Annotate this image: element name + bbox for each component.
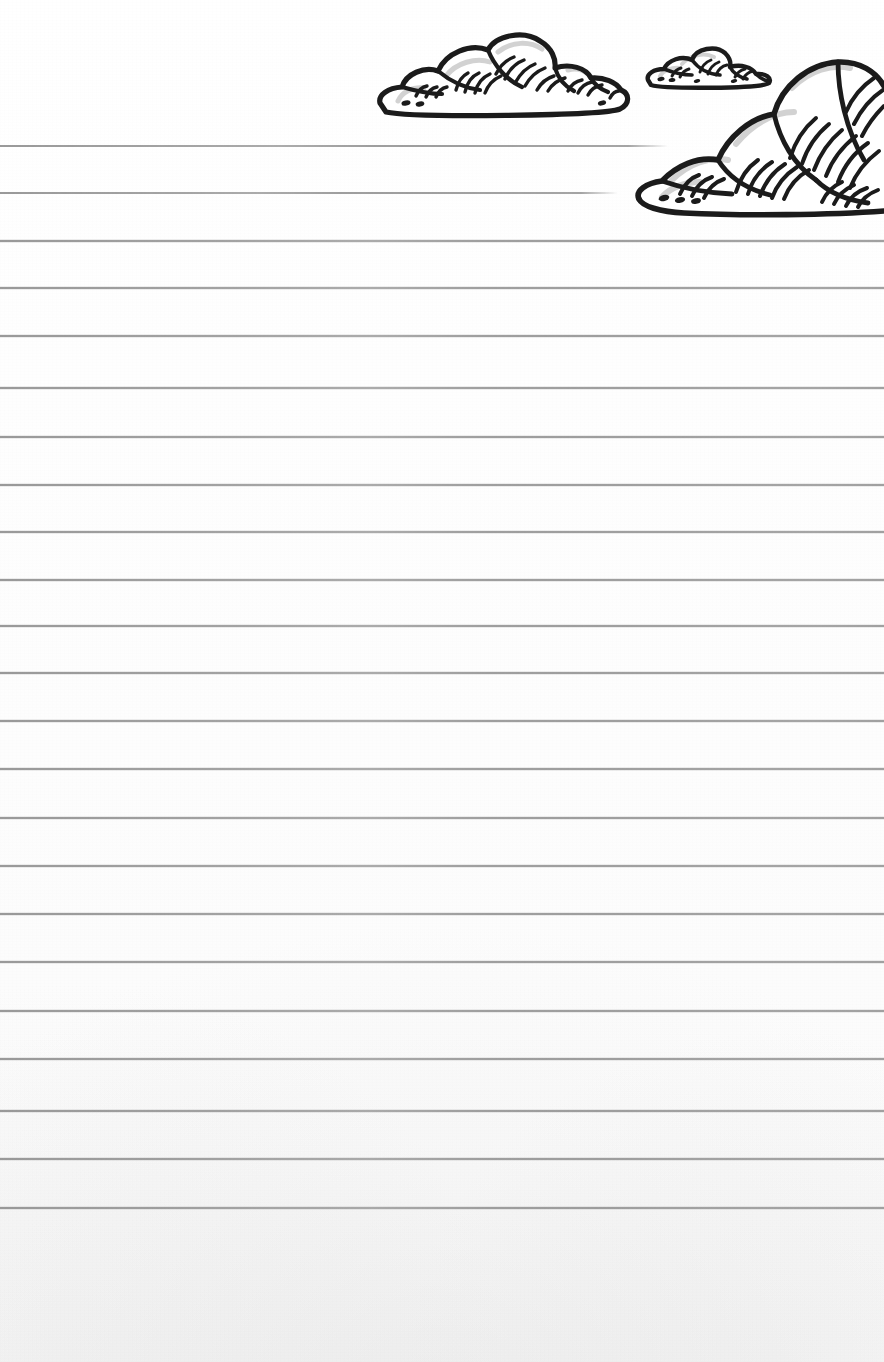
ruled-line [0, 1058, 884, 1060]
ruled-line [0, 1110, 884, 1112]
ruled-line [0, 1010, 884, 1012]
ruled-line [0, 961, 884, 963]
ruled-line [0, 436, 884, 438]
ruled-line [0, 720, 884, 722]
ruled-line [0, 817, 884, 819]
ruled-line [0, 287, 884, 289]
notepaper-page [0, 0, 884, 1362]
ruled-line [0, 192, 618, 194]
ruled-line [0, 672, 884, 674]
ruled-line [0, 1207, 884, 1209]
ruled-line [0, 145, 668, 147]
ruled-line [0, 913, 884, 915]
ruled-line [0, 335, 884, 337]
ruled-line [0, 240, 884, 242]
ruled-line [0, 579, 884, 581]
ruled-line [0, 1158, 884, 1160]
ruled-line [0, 768, 884, 770]
ruled-lines-group [0, 0, 884, 1362]
ruled-line [0, 865, 884, 867]
ruled-line [0, 531, 884, 533]
ruled-line [0, 387, 884, 389]
ruled-line [0, 625, 884, 627]
ruled-line [0, 484, 884, 486]
